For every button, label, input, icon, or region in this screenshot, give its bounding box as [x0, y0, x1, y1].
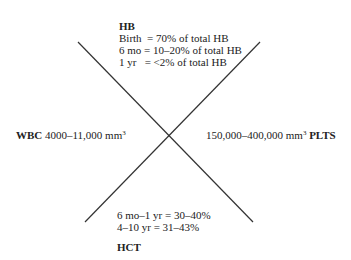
wbc-exponent: 3	[122, 129, 126, 137]
hct-section: 6 mo–1 yr = 30–40% 4–10 yr = 31–43% HCT	[117, 209, 211, 253]
hct-6mo-1yr: 6 mo–1 yr = 30–40%	[117, 209, 211, 221]
plts-section: 150,000–400,000 mm3 PLTS	[206, 129, 336, 141]
hb-birth: Birth = 70% of total HB	[119, 32, 242, 44]
hb-6mo: 6 mo = 10–20% of total HB	[119, 44, 242, 56]
hb-title: HB	[119, 20, 242, 32]
plts-exponent: 3	[303, 129, 307, 137]
hb-1yr: 1 yr = <2% of total HB	[119, 56, 242, 68]
wbc-value: 4000–11,000 mm	[45, 129, 122, 141]
plts-label: PLTS	[309, 129, 336, 141]
wbc-label: WBC	[16, 129, 42, 141]
hct-title: HCT	[117, 241, 211, 253]
hb-section: HB Birth = 70% of total HB 6 mo = 10–20%…	[119, 20, 242, 68]
hct-4-10yr: 4–10 yr = 31–43%	[117, 221, 211, 233]
wbc-section: WBC 4000–11,000 mm3	[16, 129, 126, 141]
plts-value: 150,000–400,000 mm	[206, 129, 303, 141]
